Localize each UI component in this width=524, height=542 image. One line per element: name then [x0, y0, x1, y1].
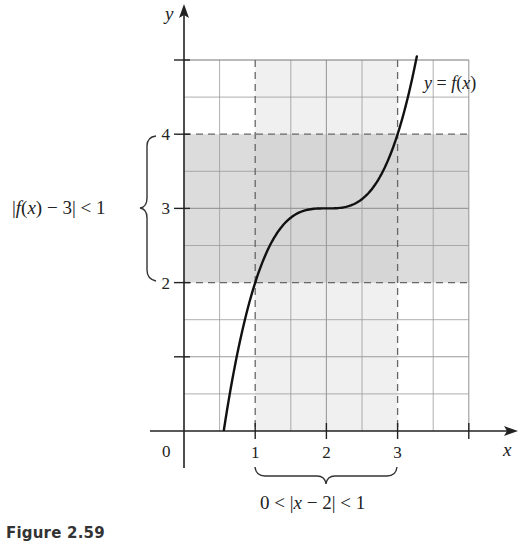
grid-lines	[184, 60, 469, 431]
y-tick-labels: 234	[162, 125, 171, 292]
y-tick-label: 3	[162, 199, 171, 218]
origin-label: 0	[162, 442, 171, 461]
x-axis-label: x	[502, 439, 512, 460]
y-axis-label: y	[163, 3, 174, 24]
y-brace	[140, 136, 156, 281]
x-interval-label: 0 < |x − 2| < 1	[260, 492, 365, 513]
y-tick-label: 2	[162, 274, 171, 293]
x-brace	[255, 467, 397, 484]
function-label: y = f(x)	[422, 73, 476, 94]
y-tick-label: 4	[162, 125, 171, 144]
x-tick-label: 2	[322, 443, 331, 462]
figure-caption: Figure 2.59	[6, 524, 105, 542]
y-interval-label: |f(x) − 3| < 1	[12, 197, 105, 219]
x-tick-label: 3	[393, 443, 402, 462]
x-tick-label: 1	[251, 443, 260, 462]
x-tick-labels: 123	[251, 443, 402, 462]
